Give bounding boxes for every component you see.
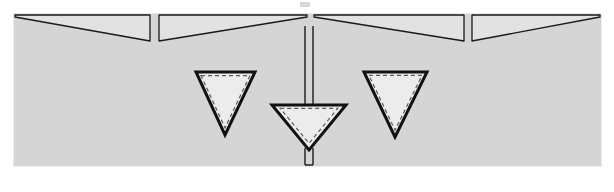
- figure-container: [0, 0, 614, 192]
- scan-artifact: [300, 2, 310, 7]
- stem-channel: [305, 26, 313, 105]
- figure-drawing: [0, 0, 614, 192]
